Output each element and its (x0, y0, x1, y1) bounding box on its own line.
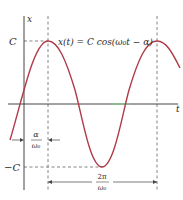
equation-label: x(t) = C cos(ω₀t − α) (58, 37, 153, 47)
period-num: 2π (97, 173, 106, 181)
period-arrowhead-right (153, 180, 157, 184)
period-den: ω₀ (98, 184, 107, 192)
phase-num: α (33, 130, 39, 139)
phase-arrowhead-left (20, 138, 24, 142)
period-arrowhead-left (48, 180, 52, 184)
t-axis-label: t (176, 104, 180, 114)
c-label: C (9, 36, 17, 47)
phase-arrowhead-right (48, 138, 52, 142)
cosine-oscillation-diagram: x t C −C x(t) = C cos(ω₀t − α) α ω₀ 2π ω… (0, 0, 183, 200)
phase-den: ω₀ (32, 142, 41, 150)
y-axis-label: x (27, 14, 32, 24)
neg-c-label: −C (4, 162, 20, 173)
